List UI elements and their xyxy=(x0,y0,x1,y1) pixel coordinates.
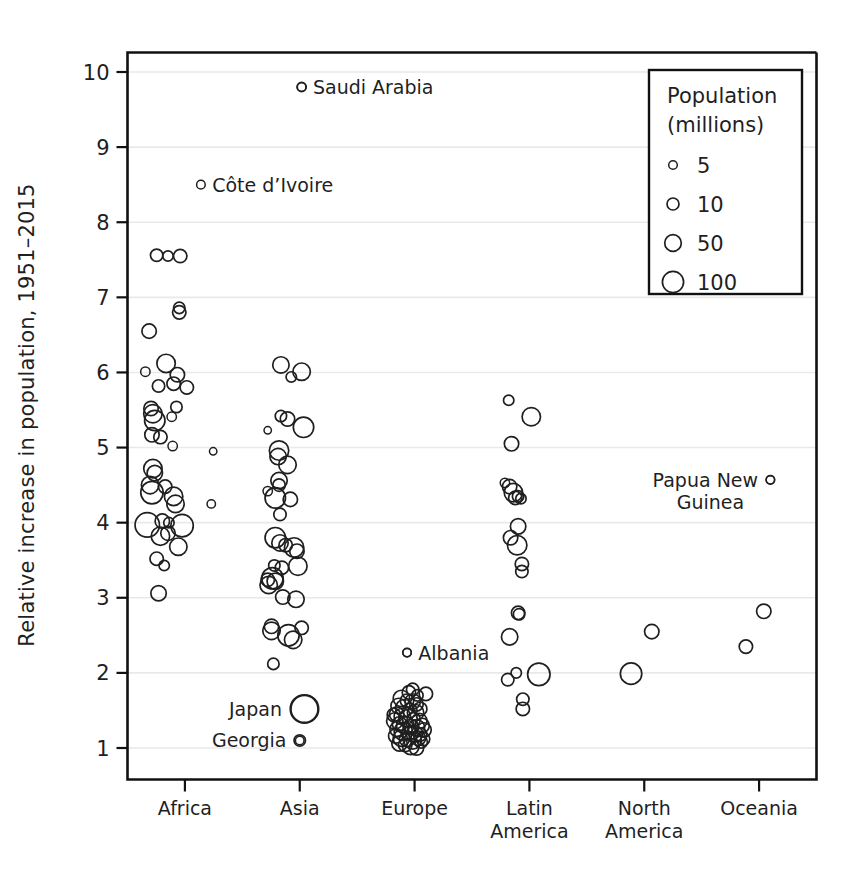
y-tick-label: 6 xyxy=(96,361,109,385)
point-annotation-label: Saudi Arabia xyxy=(313,76,434,98)
data-point-marker xyxy=(152,380,164,392)
point-annotation-label: Guinea xyxy=(677,491,744,513)
data-point-marker xyxy=(174,249,187,262)
data-point-marker xyxy=(168,441,177,450)
data-point-marker xyxy=(264,427,271,434)
data-point-marker xyxy=(154,430,167,443)
data-point-marker xyxy=(278,625,299,646)
legend-title-line2: (millions) xyxy=(667,113,764,137)
legend-title-line1: Population xyxy=(667,84,777,108)
data-point-marker xyxy=(167,377,180,390)
x-axis-ticks-group: AfricaAsiaEuropeLatinAmericaNorthAmerica… xyxy=(158,780,798,842)
legend-entry-label: 50 xyxy=(697,232,724,256)
data-point-marker xyxy=(739,640,752,653)
data-point-marker xyxy=(516,702,529,715)
data-point-marker xyxy=(528,663,550,685)
data-point-marker xyxy=(504,437,518,451)
data-point-marker xyxy=(180,381,193,394)
annotated-data-point xyxy=(297,83,306,92)
data-point-marker xyxy=(150,249,162,261)
data-point-marker xyxy=(207,500,215,508)
y-tick-label: 8 xyxy=(96,211,109,235)
data-point-marker xyxy=(141,481,163,503)
population-growth-scatter-figure: 12345678910 AfricaAsiaEuropeLatinAmerica… xyxy=(0,0,859,879)
data-point-marker xyxy=(163,251,173,261)
x-tick-label: North xyxy=(618,797,671,819)
data-point-marker xyxy=(151,527,169,545)
data-point-marker xyxy=(504,395,514,405)
data-point-marker xyxy=(293,417,313,437)
data-point-marker xyxy=(522,408,540,426)
x-tick-label: Europe xyxy=(381,797,448,819)
y-tick-label: 9 xyxy=(96,136,109,160)
x-tick-label: Africa xyxy=(158,797,212,819)
data-point-marker xyxy=(265,527,285,547)
x-tick-label: Oceania xyxy=(720,797,798,819)
y-tick-label: 2 xyxy=(96,661,109,685)
point-annotation-label: Japan xyxy=(228,698,282,720)
legend-entry-label: 10 xyxy=(697,193,724,217)
data-point-marker xyxy=(289,557,307,575)
data-point-marker xyxy=(151,586,166,601)
point-annotation-label: Georgia xyxy=(212,729,287,751)
data-point-marker xyxy=(513,609,524,620)
annotated-data-point xyxy=(197,180,206,189)
y-tick-label: 4 xyxy=(96,511,109,535)
data-point-marker xyxy=(510,519,525,534)
y-tick-label: 3 xyxy=(96,586,109,610)
data-point-marker xyxy=(501,629,517,645)
x-tick-label: Asia xyxy=(280,797,320,819)
annotated-data-point xyxy=(766,476,775,485)
y-axis-ticks-group: 12345678910 xyxy=(83,61,128,761)
y-tick-label: 10 xyxy=(83,61,110,85)
data-point-marker xyxy=(150,552,163,565)
x-tick-label: America xyxy=(490,820,568,842)
x-tick-label: Latin xyxy=(506,797,553,819)
x-tick-label: America xyxy=(605,820,683,842)
data-point-marker xyxy=(171,514,193,536)
data-point-marker xyxy=(170,368,184,382)
data-point-marker xyxy=(170,538,187,555)
annotated-data-point xyxy=(403,648,412,657)
data-point-marker xyxy=(268,658,279,669)
legend-group: Population(millions)51050100 xyxy=(649,70,802,295)
data-point-marker xyxy=(142,324,156,338)
data-point-marker xyxy=(273,357,289,373)
legend-entry-label: 100 xyxy=(697,271,737,295)
annotated-data-point xyxy=(291,695,318,722)
data-point-marker xyxy=(159,560,169,570)
data-point-marker xyxy=(280,412,294,426)
data-point-marker xyxy=(167,412,176,421)
data-point-marker xyxy=(757,604,771,618)
annotated-data-point xyxy=(295,736,304,745)
data-point-marker xyxy=(209,448,216,455)
y-tick-label: 1 xyxy=(96,737,109,761)
point-annotation-label: Albania xyxy=(418,642,489,664)
data-point-marker xyxy=(274,508,286,520)
y-tick-label: 5 xyxy=(96,436,109,460)
point-annotation-label: Côte d’Ivoire xyxy=(212,174,333,196)
chart-canvas: 12345678910 AfricaAsiaEuropeLatinAmerica… xyxy=(0,0,859,879)
y-axis-label: Relative increase in population, 1951–20… xyxy=(15,183,39,646)
data-point-marker xyxy=(171,401,182,412)
legend-entry-label: 5 xyxy=(697,154,710,178)
data-point-marker xyxy=(645,624,659,638)
point-annotation-label: Papua New xyxy=(653,469,758,491)
y-tick-label: 7 xyxy=(96,286,109,310)
